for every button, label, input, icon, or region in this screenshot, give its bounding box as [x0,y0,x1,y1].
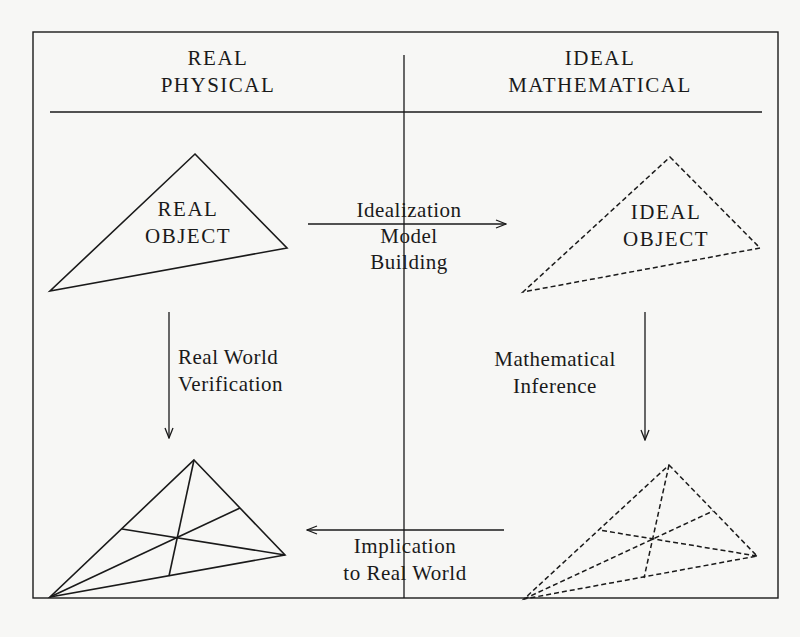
ideal-object-label-text: IDEAL OBJECT [606,199,726,253]
real-object-line2: OBJECT [128,223,248,250]
inference-label: Mathematical Inference [480,346,630,400]
implication-line2: to Real World [325,560,485,587]
header-left-line1: REAL [118,45,318,72]
header-right-line1: IDEAL [480,45,720,72]
ideal-result-triangle [524,465,757,599]
real-object-label: REAL OBJECT [128,196,248,250]
verification-line1: Real World [178,344,308,371]
idealization-label: Idealization Model Building [334,197,484,275]
outer-frame [33,32,778,598]
idealization-line2: Model [334,223,484,249]
header-ideal-mathematical: IDEAL MATHEMATICAL [480,45,720,99]
header-right-line2: MATHEMATICAL [480,72,720,99]
ideal-object-line2: OBJECT [606,226,726,253]
header-real-physical: REAL PHYSICAL [118,45,318,99]
implication-line1: Implication [325,533,485,560]
real-object-line1: REAL [128,196,248,223]
implication-label: Implication to Real World [325,533,485,587]
real-result-triangle [50,460,285,597]
header-left-line2: PHYSICAL [118,72,318,99]
ideal-object-line1: IDEAL [606,199,726,226]
verification-label: Real World Verification [178,344,308,398]
inference-line1: Mathematical [480,346,630,373]
verification-line2: Verification [178,371,308,398]
idealization-line3: Building [334,249,484,275]
idealization-line1: Idealization [334,197,484,223]
inference-line2: Inference [480,373,630,400]
